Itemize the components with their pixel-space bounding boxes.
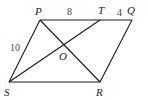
measure-PT: 8 [67,6,72,17]
segment-PR [40,20,100,82]
label-Q: Q [127,4,135,16]
segment-QR [100,20,132,82]
measure-PS: 10 [10,42,20,53]
label-R: R [95,86,103,98]
segment-ST [9,20,100,82]
label-P: P [34,5,42,17]
measure-TQ: 4 [117,7,122,18]
label-T: T [98,4,105,16]
label-S: S [4,86,10,98]
parallelogram-diagram: P 8 T 4 Q 10 O S R [0,0,148,100]
label-O: O [59,50,67,62]
